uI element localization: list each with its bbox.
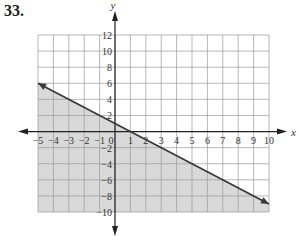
x-tick-label: −3: [63, 135, 74, 146]
x-tick-label: 1: [128, 135, 133, 146]
x-tick-label: −4: [48, 135, 59, 146]
y-tick-label: −2: [101, 143, 112, 154]
y-tick-label: 10: [102, 46, 112, 57]
x-tick-label: −5: [33, 135, 44, 146]
y-axis-arrow-up-icon: [112, 11, 118, 21]
x-tick-label: 9: [251, 135, 256, 146]
y-axis-arrow-down-icon: [112, 226, 118, 236]
y-tick-label: 6: [107, 78, 112, 89]
x-tick-label: 6: [205, 135, 210, 146]
y-tick-label: −10: [96, 207, 112, 218]
y-axis-label: y: [110, 0, 116, 11]
x-tick-label: 4: [174, 135, 179, 146]
x-axis-arrow-left-icon: [18, 129, 28, 135]
x-tick-label: 5: [190, 135, 195, 146]
y-tick-label: 4: [107, 94, 112, 105]
y-tick-label: −4: [101, 159, 112, 170]
y-tick-label: −8: [101, 191, 112, 202]
x-tick-label: 10: [264, 135, 274, 146]
y-tick-label: 12: [102, 30, 112, 41]
x-tick-label: 8: [236, 135, 241, 146]
x-axis-arrow-right-icon: [277, 129, 287, 135]
y-tick-label: −6: [101, 175, 112, 186]
x-axis-label: x: [290, 126, 296, 138]
x-tick-label: 7: [220, 135, 225, 146]
inequality-graph: xy−5−4−3−2−1012345678910−10−8−6−4−224681…: [0, 0, 298, 236]
x-tick-label: −2: [79, 135, 90, 146]
y-tick-label: 8: [107, 62, 112, 73]
x-tick-label: 3: [159, 135, 164, 146]
